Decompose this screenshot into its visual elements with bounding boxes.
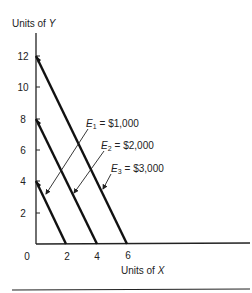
label-e3: E3= $3,000 <box>111 163 164 175</box>
svg-text:2: 2 <box>64 251 70 262</box>
y-tick-labels: 12 10 8 6 4 2 <box>17 51 29 219</box>
svg-text:4: 4 <box>20 176 26 187</box>
bottom-rule <box>12 289 250 290</box>
svg-text:0: 0 <box>24 251 30 262</box>
x-tick-labels: 0 2 4 6 <box>24 250 131 262</box>
x-axis <box>36 243 250 244</box>
leader-e3 <box>103 174 111 189</box>
label-e1: E1= $1,000 <box>86 118 139 130</box>
budget-line-e2 <box>36 119 97 244</box>
budget-lines-chart: Units of Y 12 10 8 6 4 2 0 2 4 6 Units o… <box>0 0 252 293</box>
budget-line-e3 <box>36 56 127 244</box>
y-axis-label: Units of Y <box>12 18 57 29</box>
svg-text:2: 2 <box>20 208 26 219</box>
svg-text:4: 4 <box>94 251 100 262</box>
x-axis-label: Units of X <box>121 265 165 276</box>
label-e2: E2= $2,000 <box>101 140 154 152</box>
svg-text:6: 6 <box>125 250 131 261</box>
svg-text:10: 10 <box>17 82 29 93</box>
svg-text:6: 6 <box>20 145 26 156</box>
budget-line-e1 <box>36 181 66 244</box>
svg-text:8: 8 <box>20 114 26 125</box>
svg-text:12: 12 <box>17 51 29 62</box>
